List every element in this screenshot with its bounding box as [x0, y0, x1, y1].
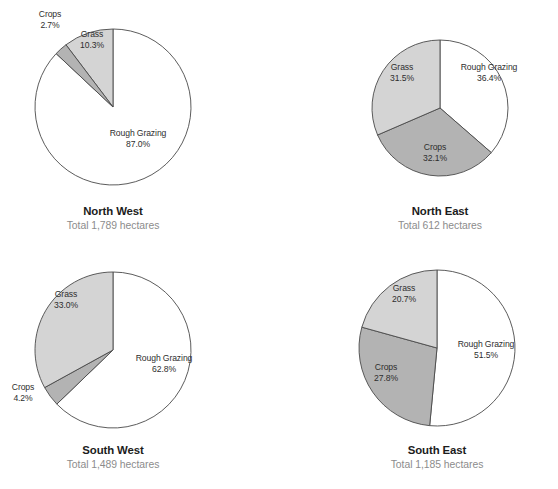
- region-total: Total 1,185 hectares: [317, 457, 557, 472]
- caption-north-east: North East Total 612 hectares: [320, 204, 558, 233]
- panel-south-east: Grass 20.7% Rough Grazing 51.5% Crops 27…: [279, 245, 558, 489]
- label-grass: Grass 31.5%: [378, 62, 426, 84]
- label-rough-grazing: Rough Grazing 36.4%: [449, 62, 529, 84]
- label-crops: Crops 2.7%: [28, 9, 72, 31]
- label-crops: Crops 4.2%: [2, 382, 44, 404]
- label-crops: Crops 32.1%: [411, 142, 459, 164]
- caption-south-east: South East Total 1,185 hectares: [317, 443, 557, 472]
- label-grass: Grass 10.3%: [70, 29, 114, 51]
- label-grass: Grass 20.7%: [380, 283, 428, 305]
- region-name: North East: [320, 204, 558, 218]
- label-grass: Grass 33.0%: [42, 289, 90, 311]
- panel-south-west: Grass 33.0% Rough Grazing 62.8% Crops 4.…: [0, 245, 279, 489]
- caption-south-west: South West Total 1,489 hectares: [0, 443, 233, 472]
- caption-north-west: North West Total 1,789 hectares: [0, 204, 233, 233]
- region-total: Total 612 hectares: [320, 218, 558, 233]
- pie-chart-grid: Crops 2.7% Grass 10.3% Rough Grazing 87.…: [0, 0, 558, 489]
- region-total: Total 1,789 hectares: [0, 218, 233, 233]
- label-rough-grazing: Rough Grazing 51.5%: [445, 339, 527, 361]
- region-total: Total 1,489 hectares: [0, 457, 233, 472]
- region-name: South West: [0, 443, 233, 457]
- label-rough-grazing: Rough Grazing 87.0%: [95, 128, 181, 150]
- panel-north-west: Crops 2.7% Grass 10.3% Rough Grazing 87.…: [0, 0, 279, 245]
- region-name: South East: [317, 443, 557, 457]
- panel-north-east: Grass 31.5% Rough Grazing 36.4% Crops 32…: [279, 0, 558, 245]
- label-crops: Crops 27.8%: [362, 362, 410, 384]
- region-name: North West: [0, 204, 233, 218]
- label-rough-grazing: Rough Grazing 62.8%: [122, 353, 206, 375]
